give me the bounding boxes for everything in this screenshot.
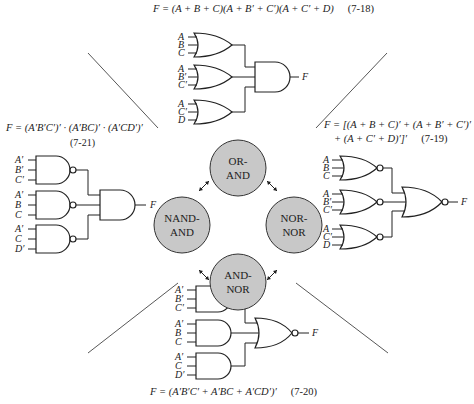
input-label: C′: [323, 204, 333, 215]
output-label: F: [311, 327, 319, 338]
node-label: NAND-: [164, 212, 200, 224]
or-gate-icon: A B C: [177, 31, 232, 58]
and-gate-icon: [100, 190, 135, 220]
input-label: C: [175, 336, 182, 347]
output-label: F: [301, 71, 309, 82]
input-label: C′: [178, 79, 188, 90]
input-label: C: [178, 47, 185, 58]
nor-gate-icon: [255, 318, 292, 348]
node-label: NOR: [282, 226, 306, 238]
input-label: C′: [175, 302, 185, 313]
nor-gate-icon: A B′ C′: [322, 188, 383, 215]
nor-gate-icon: A B C: [322, 154, 383, 181]
nand-gate-icon: A′ B′ C′: [14, 154, 76, 185]
output-label: F: [460, 196, 468, 207]
hub-node-nor-nor: NOR- NOR: [266, 197, 322, 253]
divider-line: [88, 283, 178, 353]
output-label: F: [149, 199, 157, 210]
and-gate-icon: [255, 62, 290, 92]
nor-gate-icon: A C′ D: [322, 223, 383, 250]
circuit-nand-and: A′ B′ C′ A′ B C A′ C D′ F: [14, 154, 157, 254]
divider-line: [316, 53, 387, 128]
diagram-canvas: A B C A B′ C′ A C′ D F: [0, 0, 474, 404]
hub-node-and-nor: AND- NOR: [210, 254, 266, 310]
nand-gate-icon: A′ C D′: [14, 223, 76, 254]
input-label: C: [15, 209, 22, 220]
input-label: D: [177, 114, 186, 125]
divider-line: [296, 283, 388, 353]
hub-node-nand-and: NAND- AND: [154, 197, 210, 253]
input-label: D′: [14, 243, 25, 254]
node-label: AND: [226, 169, 250, 181]
node-label: NOR: [226, 283, 250, 295]
circuit-or-and: A B C A B′ C′ A C′ D F: [177, 31, 309, 125]
nor-gate-icon: [402, 187, 442, 217]
divider-line: [88, 53, 158, 128]
and-gate-icon: A′ C D′: [174, 351, 231, 380]
node-label: AND-: [224, 269, 252, 281]
input-label: D: [322, 239, 331, 250]
node-label: NOR-: [281, 212, 308, 224]
or-gate-icon: A B′ C′: [177, 63, 232, 90]
hub-node-or-and: OR- AND: [210, 140, 266, 196]
input-label: D′: [174, 369, 185, 380]
nand-gate-icon: A′ B C: [14, 189, 76, 220]
input-label: C′: [15, 174, 25, 185]
circuit-nor-nor: A B C A B′ C′ A C′ D F: [322, 154, 468, 250]
node-label: OR-: [229, 155, 248, 167]
or-gate-icon: A C′ D: [177, 98, 232, 125]
and-gate-icon: A′ B C: [174, 318, 231, 347]
node-label: AND: [170, 226, 194, 238]
input-label: C: [323, 170, 330, 181]
